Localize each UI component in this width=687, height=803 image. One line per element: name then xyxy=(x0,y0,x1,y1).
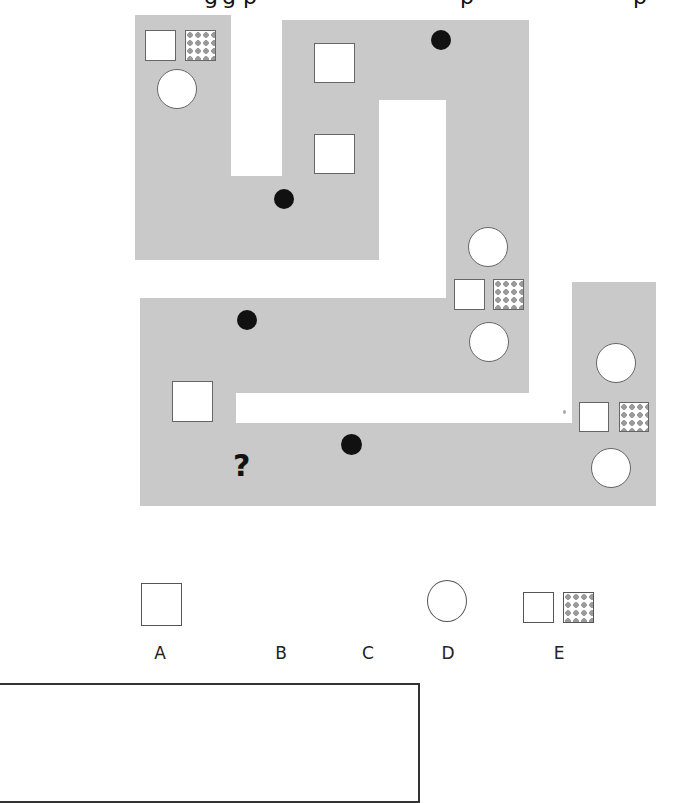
option-e-label: E xyxy=(544,643,574,663)
black-dot-shape xyxy=(274,189,294,209)
question-heading-clipped: g g p p p xyxy=(0,0,687,8)
square-shape xyxy=(454,279,485,310)
answer-input-box[interactable] xyxy=(0,683,420,803)
circle-shape xyxy=(468,227,508,267)
heading-fragment: g xyxy=(222,0,236,8)
option-c-label: C xyxy=(353,643,383,663)
square-shape xyxy=(314,134,355,174)
circle-shape xyxy=(157,69,197,109)
option-a-square-shape xyxy=(141,583,182,626)
dotted-square-shape xyxy=(493,279,524,310)
black-dot-shape xyxy=(237,310,257,330)
black-dot-shape xyxy=(341,434,362,455)
heading-fragment: p xyxy=(460,0,474,8)
square-shape xyxy=(314,43,355,83)
option-b-label: B xyxy=(266,643,296,663)
circle-shape xyxy=(596,343,636,383)
speck xyxy=(563,410,566,414)
option-d-label: D xyxy=(433,643,463,663)
circle-shape xyxy=(591,448,631,488)
heading-fragment: p xyxy=(633,0,647,8)
option-e-square-shape xyxy=(523,592,554,623)
dotted-square-shape xyxy=(619,402,649,432)
square-shape xyxy=(172,381,213,422)
black-dot-shape xyxy=(431,30,451,50)
option-e-dotted-square-shape xyxy=(563,592,594,623)
missing-item-marker: ? xyxy=(233,448,250,483)
option-a-label: A xyxy=(145,643,175,663)
heading-fragment: g xyxy=(204,0,218,8)
square-shape xyxy=(145,30,176,61)
circle-shape xyxy=(469,322,509,362)
square-shape xyxy=(579,402,609,432)
dotted-square-shape xyxy=(185,30,216,61)
option-d-circle-shape xyxy=(427,580,467,622)
heading-fragment: p xyxy=(243,0,257,8)
